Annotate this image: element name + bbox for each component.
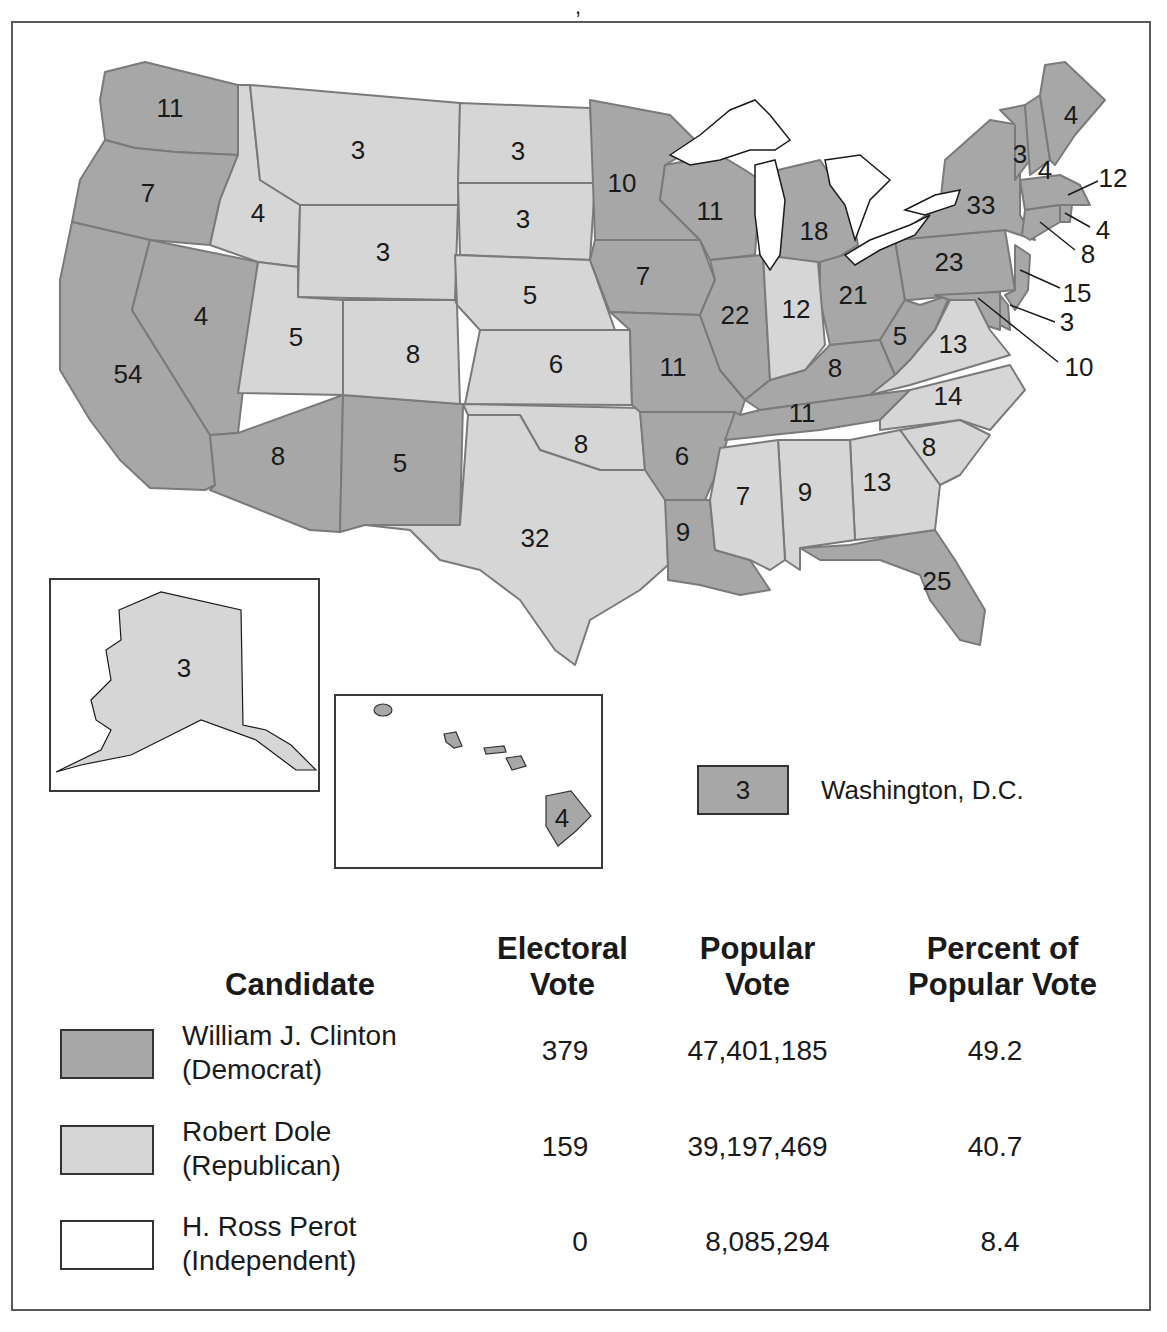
republican-swatch <box>60 1125 154 1175</box>
svg-text:33: 33 <box>967 190 996 220</box>
candidate-name: William J. Clinton(Democrat) <box>182 1019 397 1087</box>
candidate-name: H. Ross Perot(Independent) <box>182 1210 356 1278</box>
svg-text:8: 8 <box>271 441 285 471</box>
svg-text:10: 10 <box>608 168 637 198</box>
svg-text:9: 9 <box>676 517 690 547</box>
svg-text:12: 12 <box>1099 163 1128 193</box>
percent-vote: 8.4 <box>955 1225 1045 1259</box>
percent-vote: 49.2 <box>950 1034 1040 1068</box>
hawaii-inset: 4 <box>334 694 603 869</box>
table-row-dole: Robert Dole(Republican) 159 39,197,469 4… <box>30 1121 1130 1181</box>
svg-text:11: 11 <box>157 93 184 123</box>
svg-text:7: 7 <box>636 261 650 291</box>
svg-text:12: 12 <box>782 294 811 324</box>
header-electoral-vote: ElectoralVote <box>470 931 655 1003</box>
svg-text:54: 54 <box>114 359 143 389</box>
svg-text:5: 5 <box>289 322 303 352</box>
table-row-clinton: William J. Clinton(Democrat) 379 47,401,… <box>30 1025 1130 1085</box>
percent-vote: 40.7 <box>950 1130 1040 1164</box>
svg-text:3: 3 <box>351 135 365 165</box>
svg-text:18: 18 <box>800 216 829 246</box>
svg-text:11: 11 <box>697 196 724 226</box>
electoral-vote: 0 <box>545 1225 615 1259</box>
state-IA <box>590 240 715 315</box>
svg-text:4: 4 <box>1064 100 1078 130</box>
svg-text:8: 8 <box>922 432 936 462</box>
table-row-perot: H. Ross Perot(Independent) 0 8,085,294 8… <box>30 1216 1130 1276</box>
svg-text:4: 4 <box>251 198 265 228</box>
svg-text:13: 13 <box>863 467 892 497</box>
svg-text:3: 3 <box>177 653 191 683</box>
header-popular-vote: PopularVote <box>670 931 845 1003</box>
svg-text:14: 14 <box>934 381 963 411</box>
popular-vote: 8,085,294 <box>680 1225 855 1259</box>
svg-text:15: 15 <box>1063 278 1092 308</box>
header-candidate: Candidate <box>200 967 400 1003</box>
svg-text:32: 32 <box>521 523 550 553</box>
popular-vote: 39,197,469 <box>670 1130 845 1164</box>
svg-text:9: 9 <box>798 477 812 507</box>
alaska-inset: 3 <box>49 578 320 792</box>
svg-text:6: 6 <box>549 349 563 379</box>
independent-swatch <box>60 1220 154 1270</box>
alaska-map: 3 <box>51 580 318 790</box>
svg-text:3: 3 <box>511 136 525 166</box>
svg-text:7: 7 <box>141 178 155 208</box>
svg-text:7: 7 <box>736 481 750 511</box>
svg-text:11: 11 <box>789 398 816 428</box>
hawaii-map: 4 <box>336 696 601 867</box>
svg-text:25: 25 <box>923 566 952 596</box>
candidate-name: Robert Dole(Republican) <box>182 1115 341 1183</box>
svg-text:23: 23 <box>935 247 964 277</box>
democrat-swatch <box>60 1029 154 1079</box>
svg-text:8: 8 <box>828 353 842 383</box>
header-percent-popular-vote: Percent ofPopular Vote <box>885 931 1120 1003</box>
dc-legend: 3 Washington, D.C. <box>697 765 1024 815</box>
electoral-vote: 159 <box>530 1130 600 1164</box>
electoral-vote: 379 <box>530 1034 600 1068</box>
svg-text:5: 5 <box>893 321 907 351</box>
svg-text:4: 4 <box>194 301 208 331</box>
svg-text:4: 4 <box>1096 215 1110 245</box>
svg-text:8: 8 <box>406 339 420 369</box>
svg-text:21: 21 <box>839 280 868 310</box>
svg-text:11: 11 <box>660 352 687 382</box>
svg-text:3: 3 <box>1013 139 1027 169</box>
state-FL <box>800 530 985 645</box>
svg-text:3: 3 <box>376 237 390 267</box>
popular-vote: 47,401,185 <box>670 1034 845 1068</box>
dc-swatch: 3 <box>697 765 789 815</box>
svg-text:13: 13 <box>939 329 968 359</box>
svg-text:22: 22 <box>721 300 750 330</box>
svg-text:5: 5 <box>523 280 537 310</box>
state-ND <box>458 103 595 183</box>
svg-text:8: 8 <box>574 429 588 459</box>
svg-text:3: 3 <box>516 204 530 234</box>
svg-text:6: 6 <box>675 441 689 471</box>
svg-text:3: 3 <box>1060 307 1074 337</box>
svg-text:5: 5 <box>393 448 407 478</box>
svg-text:4: 4 <box>555 803 569 833</box>
dc-label: Washington, D.C. <box>821 775 1024 806</box>
svg-text:8: 8 <box>1081 239 1095 269</box>
svg-text:4: 4 <box>1038 155 1052 185</box>
state-CO <box>343 300 460 404</box>
svg-text:10: 10 <box>1065 352 1094 382</box>
